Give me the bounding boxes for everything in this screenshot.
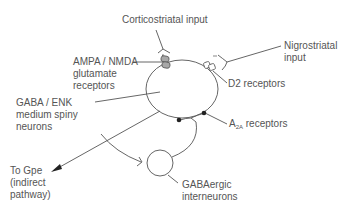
a2a-receptor-dot: [177, 118, 182, 123]
ampa-label-line2: glutamate: [73, 68, 138, 80]
ampa-label-line3: receptors: [73, 80, 138, 92]
nigro-label-line2: input: [284, 52, 337, 64]
gaba-label-line2: medium spiny: [16, 109, 78, 121]
a2a-receptor-dot: [202, 111, 207, 116]
gaba-label-line1: GABA / ENK: [16, 97, 78, 109]
nigrostriatal-terminal: [218, 55, 227, 70]
corticostriatal-terminal: [158, 49, 170, 53]
arrow-head-icon: [51, 164, 62, 172]
a2a-leader-line: [205, 113, 227, 124]
gpe-label-line1: To Gpe: [10, 165, 51, 177]
interneuron-label-line2: interneurons: [182, 191, 238, 203]
corticostriatal-input-label: Corticostriatal input: [122, 14, 208, 26]
ampa-label-line1: AMPA / NMDA: [73, 56, 138, 68]
gabaergic-interneurons-label: GABAergic interneurons: [182, 179, 238, 203]
to-gpe-label: To Gpe (indirect pathway): [10, 165, 51, 201]
a2a-label-rest: receptors: [243, 118, 287, 129]
ampa-nmda-label: AMPA / NMDA glutamate receptors: [73, 56, 138, 92]
nigro-label-line1: Nigrostriatal: [284, 40, 337, 52]
gpe-label-line2: (indirect: [10, 177, 51, 189]
interneuron-label-line1: GABAergic: [182, 179, 238, 191]
corticostriatal-axon: [156, 30, 163, 49]
d2-receptor-icon: [203, 61, 216, 71]
collateral-to-interneuron: [101, 134, 141, 162]
gaba-enk-label: GABA / ENK medium spiny neurons: [16, 97, 78, 133]
a2a-label-main: A: [229, 118, 236, 129]
d2-receptors-label: D2 receptors: [228, 78, 285, 90]
a2a-label-sub: 2A: [236, 124, 243, 130]
interneuron-process: [172, 118, 197, 157]
gaba-label-line3: neurons: [16, 121, 78, 133]
nigrostriatal-input-label: Nigrostriatal input: [284, 40, 337, 64]
gabaergic-interneuron: [147, 150, 173, 176]
nigrostriatal-axon: [227, 46, 281, 62]
gpe-label-line3: pathway): [10, 189, 51, 201]
interneuron-leader-line: [168, 175, 178, 183]
gaba-leader-line: [95, 92, 160, 102]
a2a-receptors-label: A2A receptors: [229, 118, 287, 133]
medium-spiny-neuron-body: [146, 60, 218, 118]
